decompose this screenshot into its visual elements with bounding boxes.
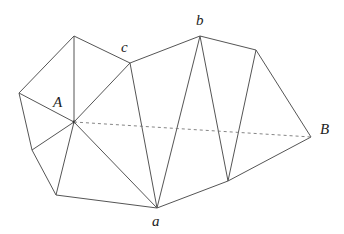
edge-bottom_right-B xyxy=(228,137,311,181)
diagram-svg: A B a b c xyxy=(0,0,344,234)
edge-b-a xyxy=(157,36,200,208)
edge-a-bottom_right xyxy=(157,181,228,208)
edge-bottom_left-A xyxy=(56,122,74,195)
edge-left-lower_left xyxy=(19,93,32,150)
edge-bottom_left-a xyxy=(56,195,157,208)
edge-c-b xyxy=(130,36,200,63)
dashed-segment-A-B xyxy=(74,122,311,137)
edge-top-left xyxy=(19,36,74,93)
edge-c-A xyxy=(74,63,130,122)
label-c: c xyxy=(121,39,128,55)
edge-left-A xyxy=(19,93,74,122)
label-a: a xyxy=(152,213,160,229)
edge-right_top-B xyxy=(256,50,311,137)
triangulation-diagram: A B a b c xyxy=(0,0,344,234)
label-b: b xyxy=(196,12,204,28)
label-A: A xyxy=(52,94,63,110)
label-B: B xyxy=(320,121,329,137)
edge-b-right_top xyxy=(200,36,256,50)
edge-lower_left-bottom_left xyxy=(32,150,56,195)
edge-A-a xyxy=(74,122,157,208)
edge-c-a xyxy=(130,63,157,208)
edge-right_top-bottom_right xyxy=(228,50,256,181)
edge-b-bottom_right xyxy=(200,36,228,181)
